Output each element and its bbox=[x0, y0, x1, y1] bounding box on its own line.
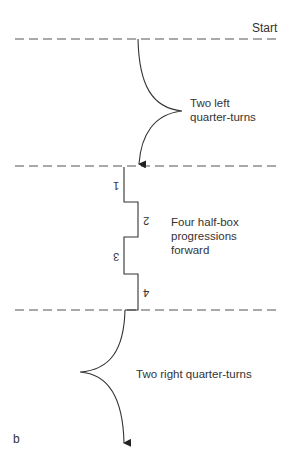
dance-path-diagram bbox=[0, 0, 297, 457]
panel-label: b bbox=[13, 433, 20, 447]
step-number-4: 4 bbox=[143, 287, 149, 298]
step-number-1: 1 bbox=[113, 180, 119, 191]
half-box-label-line2: progressions bbox=[171, 230, 237, 244]
right-turns-label: Two right quarter-turns bbox=[136, 368, 252, 382]
left-turns-label-line1: Two left bbox=[190, 97, 230, 111]
half-box-steps-path bbox=[124, 167, 138, 310]
left-turns-path bbox=[138, 39, 182, 164]
step-number-3: 3 bbox=[113, 251, 119, 262]
half-box-label-line1: Four half-box bbox=[171, 216, 239, 230]
right-turns-path bbox=[80, 310, 125, 443]
start-label: Start bbox=[252, 22, 277, 36]
half-box-label-line3: forward bbox=[171, 244, 209, 258]
left-turns-label-line2: quarter-turns bbox=[190, 111, 256, 125]
step-number-2: 2 bbox=[143, 215, 149, 226]
